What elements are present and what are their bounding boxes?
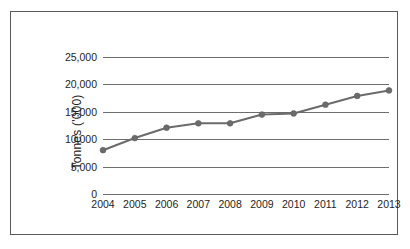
data-point [132, 135, 138, 141]
y-tick-label: 10,000 [39, 133, 97, 145]
plot-area [103, 57, 389, 194]
data-point [354, 93, 360, 99]
y-tick-label: 15,000 [39, 106, 97, 118]
gridline-0 [103, 194, 389, 195]
data-point [386, 88, 392, 94]
data-series-line [103, 57, 389, 194]
data-point [195, 120, 201, 126]
chart-frame: Tonnes ('000) 25,000 20,000 15,000 10,00… [10, 11, 398, 235]
data-point [164, 125, 170, 131]
y-tick-label: 20,000 [39, 78, 97, 90]
x-axis-tick-labels: 2004 2005 2006 2007 2008 2009 2010 2011 … [103, 198, 389, 214]
y-tick-label: 25,000 [39, 51, 97, 63]
data-point [259, 112, 265, 118]
x-tick-label: 2013 [369, 198, 409, 210]
data-point [291, 111, 297, 117]
y-tick-label: 5,000 [39, 161, 97, 173]
y-axis-tick-labels: 25,000 20,000 15,000 10,000 5,000 0 [39, 57, 97, 194]
data-point [323, 102, 329, 108]
data-point [227, 120, 233, 126]
data-point [100, 147, 106, 153]
